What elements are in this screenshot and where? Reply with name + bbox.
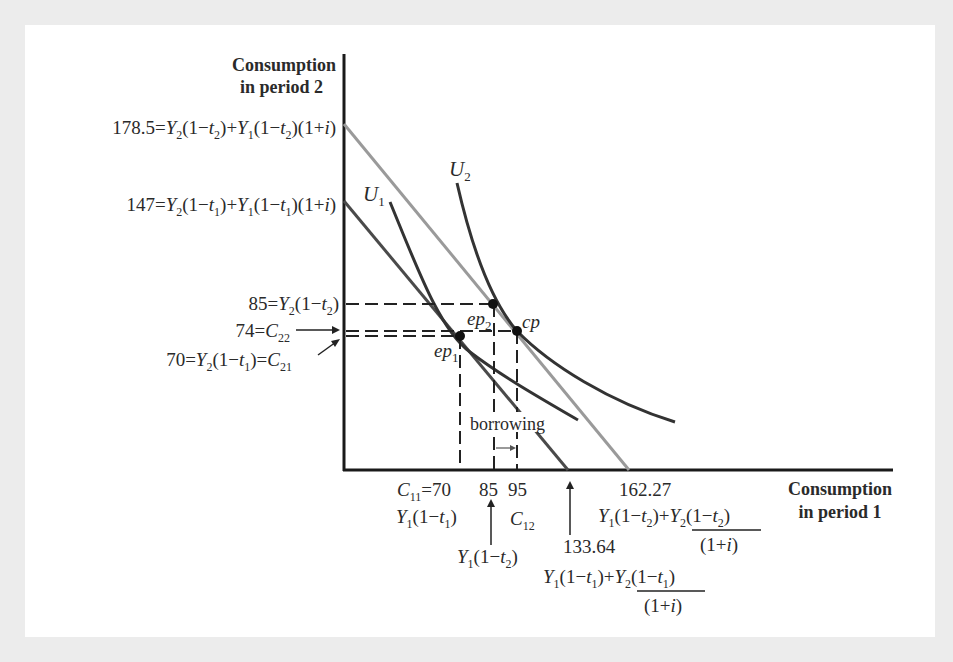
svg-text:178.5=Y2(1−t2)+Y1(1−t2)(1+i): 178.5=Y2(1−t2)+Y1(1−t2)(1+i) (112, 117, 336, 142)
y-tick-147: 147=Y2(1−t1)+Y1(1−t1)(1+i) (126, 194, 336, 219)
y-tick-74: 74=C22 (236, 320, 340, 345)
y-tick-85: 85=Y2(1−t2) (249, 293, 339, 318)
x-axis-title-line2: in period 1 (798, 502, 881, 522)
x-tick-162: 162.27 Y1(1−t2)+Y2(1−t2) (1+i) (598, 479, 761, 556)
svg-text:133.64: 133.64 (563, 536, 616, 557)
y-tick-178: 178.5=Y2(1−t2)+Y1(1−t2)(1+i) (112, 117, 336, 142)
svg-text:70=Y2(1−t1)=C21: 70=Y2(1−t1)=C21 (166, 349, 292, 374)
svg-text:85: 85 (479, 479, 498, 500)
svg-text:162.27: 162.27 (619, 479, 671, 500)
y-axis-title-line2: in period 2 (240, 77, 323, 97)
label-u1: U1 (363, 182, 385, 209)
svg-text:Y1(1−t1): Y1(1−t1) (396, 506, 457, 531)
svg-text:95: 95 (508, 479, 527, 500)
label-u2: U2 (449, 157, 471, 184)
svg-text:147=Y2(1−t1)+Y1(1−t1)(1+i): 147=Y2(1−t1)+Y1(1−t1)(1+i) (126, 194, 336, 219)
svg-text:(1+i): (1+i) (700, 534, 738, 556)
svg-text:85=Y2(1−t2): 85=Y2(1−t2) (249, 293, 339, 318)
point-ep1 (455, 331, 465, 341)
x-tick-95: 95 C12 (508, 479, 535, 533)
label-ep1: ep1 (434, 340, 458, 365)
point-ep2 (488, 299, 498, 309)
intertemporal-consumption-chart: ep1 ep2 cp U1 U2 Consumption in period 2… (0, 0, 953, 662)
y-axis-title-line1: Consumption (232, 55, 336, 75)
borrowing-annotation: borrowing (468, 412, 550, 451)
svg-text:borrowing: borrowing (470, 414, 545, 434)
svg-text:Y1(1−t2)+Y2(1−t2): Y1(1−t2)+Y2(1−t2) (598, 505, 730, 530)
point-cp (512, 326, 522, 336)
y-tick-70: 70=Y2(1−t1)=C21 (166, 339, 340, 374)
svg-text:(1+i): (1+i) (644, 595, 682, 617)
x-axis-title-line1: Consumption (788, 479, 892, 499)
svg-text:C12: C12 (510, 508, 535, 533)
svg-text:Y1(1−t1)+Y2(1−t1): Y1(1−t1)+Y2(1−t1) (543, 566, 675, 591)
svg-text:74=C22: 74=C22 (236, 320, 290, 345)
label-ep2: ep2 (467, 308, 491, 333)
x-tick-70: C11=70 Y1(1−t1) (396, 479, 457, 531)
svg-text:C11=70: C11=70 (397, 479, 451, 504)
label-cp: cp (522, 311, 540, 332)
x-tick-133: 133.64 Y1(1−t1)+Y2(1−t1) (1+i) (543, 481, 705, 617)
svg-text:Y1(1−t2): Y1(1−t2) (457, 546, 518, 571)
